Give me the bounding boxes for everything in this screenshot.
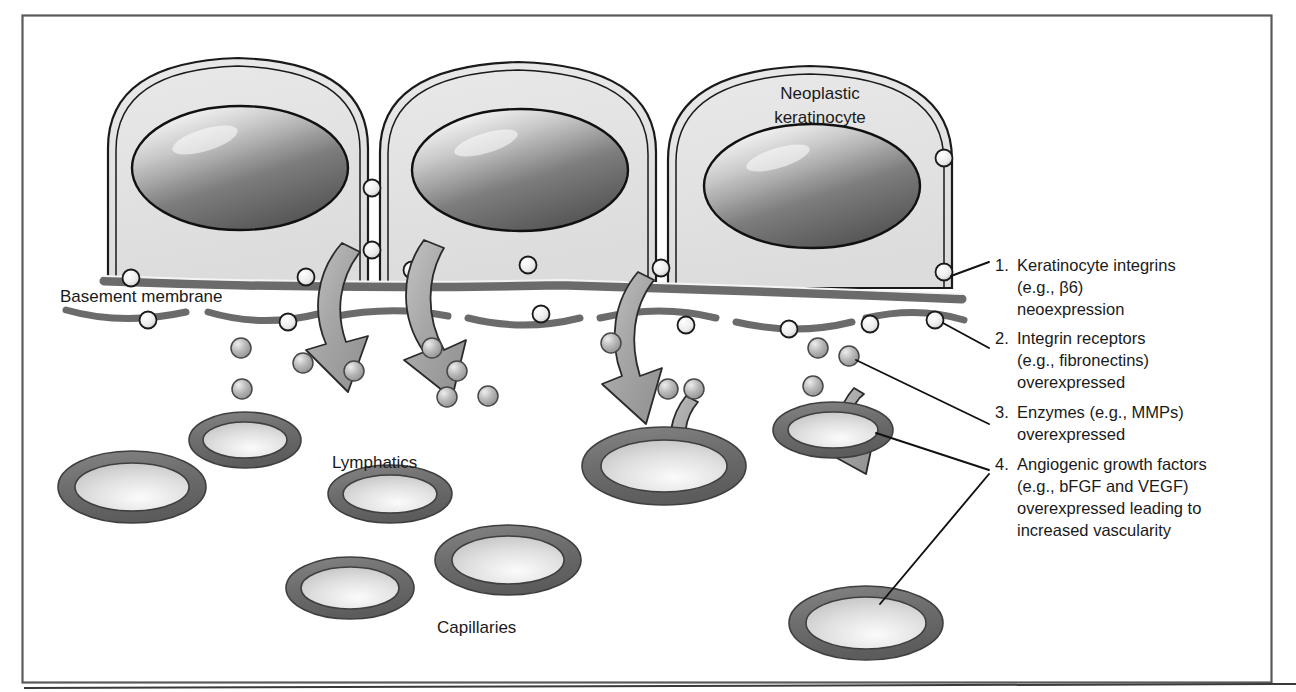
receptor-icon	[280, 314, 297, 331]
legend-item-2-line-1: Integrin receptors	[1017, 329, 1145, 347]
enzyme-dot	[839, 346, 859, 366]
receptor-icon	[298, 269, 315, 286]
vessel-capillary-center	[435, 525, 581, 595]
legend-item-1-line-3: neoexpression	[1017, 300, 1124, 318]
receptor-icon	[936, 264, 953, 281]
receptor-icon	[520, 257, 537, 274]
vessel-capillary-right	[582, 427, 746, 505]
enzyme-dot	[344, 361, 364, 381]
receptor-icon	[862, 316, 879, 333]
keratinocyte-cell-1	[108, 58, 368, 282]
enzyme-dot	[808, 338, 828, 358]
legend-item-2-number: 2.	[995, 329, 1009, 347]
enzyme-dot	[658, 379, 678, 399]
legend-item-4-line-1: Angiogenic growth factors	[1017, 455, 1207, 473]
enzyme-dot	[293, 353, 313, 373]
legend-item-1-line-1: Keratinocyte integrins	[1017, 256, 1176, 274]
legend-item-3-number: 3.	[995, 403, 1009, 421]
nucleus-2	[412, 109, 628, 231]
enzyme-dot	[447, 361, 467, 381]
legend-item-2-line-2: (e.g., fibronectins)	[1017, 351, 1149, 369]
receptor-icon	[653, 260, 670, 277]
receptor-icon	[678, 317, 695, 334]
enzyme-dot	[422, 338, 442, 358]
enzyme-dot	[601, 333, 621, 353]
legend-item-3-line-2: overexpressed	[1017, 425, 1125, 443]
enzyme-dot	[684, 379, 704, 399]
vessel-capillary-upper-right	[773, 402, 893, 458]
nucleus-3	[704, 124, 920, 248]
vessel-capillary-left	[286, 557, 414, 619]
legend-item-2-line-3: overexpressed	[1017, 373, 1125, 391]
caption-rule	[24, 684, 1296, 688]
receptor-icon	[781, 321, 798, 338]
vessel-lymphatic-mid	[328, 465, 452, 523]
receptor-icon	[364, 180, 381, 197]
receptor-icon	[533, 306, 550, 323]
legend-item-4-line-4: increased vascularity	[1017, 521, 1172, 539]
vessel-capillary-bottom-right	[789, 586, 943, 660]
figure-canvas: Neoplastic keratinocyte Basement membran…	[0, 0, 1296, 692]
legend-item-1-number: 1.	[995, 256, 1009, 274]
enzyme-dot	[232, 379, 252, 399]
enzyme-dot	[231, 338, 251, 358]
receptor-icon	[140, 312, 157, 329]
vessel-lymphatic-upper-left	[189, 412, 301, 468]
legend-item-4-line-2: (e.g., bFGF and VEGF)	[1017, 477, 1188, 495]
nucleus-1	[132, 106, 348, 230]
tumor-invasion-diagram: Neoplastic keratinocyte Basement membran…	[0, 0, 1296, 692]
receptor-icon	[364, 242, 381, 259]
legend-item-4-number: 4.	[995, 455, 1009, 473]
vessel-lymphatic-left	[58, 451, 206, 523]
receptor-icon	[936, 150, 953, 167]
label-basement-membrane: Basement membrane	[60, 287, 223, 306]
label-capillaries: Capillaries	[437, 618, 516, 637]
enzyme-dot	[803, 376, 823, 396]
label-neoplastic-keratinocyte-line1: Neoplastic	[780, 84, 860, 103]
enzyme-dot	[478, 386, 498, 406]
legend-item-1-line-2: (e.g., β6)	[1017, 278, 1083, 296]
legend-item-3-line-1: Enzymes (e.g., MMPs)	[1017, 403, 1184, 421]
receptor-icon	[123, 270, 140, 287]
label-neoplastic-keratinocyte-line2: keratinocyte	[774, 108, 866, 127]
label-lymphatics: Lymphatics	[332, 453, 417, 472]
legend-item-4-line-3: overexpressed leading to	[1017, 499, 1201, 517]
receptor-icon	[927, 312, 944, 329]
enzyme-dot	[437, 387, 457, 407]
